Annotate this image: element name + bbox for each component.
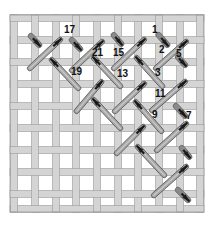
weave-crossing bbox=[52, 191, 60, 198]
weave-crossing bbox=[134, 15, 142, 22]
weave-crossing bbox=[93, 191, 101, 198]
step-number-label: 13 bbox=[117, 68, 129, 79]
weave-crossing bbox=[72, 169, 80, 176]
weave-crossing bbox=[31, 206, 39, 213]
weave-crossing bbox=[196, 206, 204, 213]
step-number-label: 19 bbox=[71, 66, 83, 77]
step-number-label: 3 bbox=[155, 67, 161, 78]
weave-crossing bbox=[52, 103, 60, 110]
weave-crossing bbox=[10, 59, 18, 66]
needlepoint-stitch-diagram: 171211525191331197 bbox=[0, 0, 212, 226]
step-number-label: 21 bbox=[92, 47, 104, 58]
weave-crossing bbox=[196, 125, 204, 132]
step-number-label: 2 bbox=[159, 44, 165, 55]
vertical-thread bbox=[11, 15, 18, 212]
weave-crossing bbox=[10, 147, 18, 154]
horizontal-thread bbox=[10, 191, 204, 198]
weave-crossing bbox=[10, 15, 18, 22]
vertical-thread bbox=[197, 15, 204, 212]
step-number-label: 9 bbox=[152, 109, 158, 120]
weave-crossing bbox=[10, 191, 18, 198]
weave-crossing bbox=[196, 81, 204, 88]
weave-crossing bbox=[31, 125, 39, 132]
weave-crossing bbox=[114, 169, 122, 176]
step-number-label: 5 bbox=[176, 48, 182, 59]
horizontal-thread bbox=[10, 81, 204, 88]
weave-crossing bbox=[196, 37, 204, 44]
weave-crossing bbox=[134, 191, 142, 198]
weave-crossing bbox=[52, 15, 60, 22]
weave-crossing bbox=[72, 206, 80, 213]
weave-crossing bbox=[72, 125, 80, 132]
step-number-label: 11 bbox=[155, 88, 166, 99]
weave-crossing bbox=[93, 147, 101, 154]
weave-crossing bbox=[31, 169, 39, 176]
step-number-label: 1 bbox=[152, 24, 158, 35]
weave-crossing bbox=[93, 15, 101, 22]
weave-crossing bbox=[52, 147, 60, 154]
horizontal-thread bbox=[10, 206, 204, 213]
weave-crossing bbox=[176, 15, 184, 22]
step-number-label: 7 bbox=[186, 110, 192, 121]
horizontal-thread bbox=[10, 15, 204, 22]
weave-crossing bbox=[196, 169, 204, 176]
weave-crossing bbox=[114, 206, 122, 213]
weave-crossing bbox=[10, 103, 18, 110]
step-number-label: 15 bbox=[113, 47, 125, 58]
horizontal-thread bbox=[10, 147, 204, 154]
step-number-label: 17 bbox=[64, 24, 76, 35]
weave-crossing bbox=[31, 81, 39, 88]
weave-crossing bbox=[155, 206, 163, 213]
